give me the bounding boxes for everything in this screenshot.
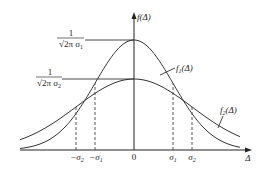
tick-label-sigma1: σ1 [169,152,176,163]
peak-value-f1: 1 √2π σ1 [57,28,84,50]
x-axis-label: Δ [244,153,250,163]
diagram-canvas: f(Δ) f1(Δ) f2(Δ) 1 √2π σ1 1 √2π σ2 −σ2 −… [0,0,267,174]
svg-text:1: 1 [69,28,74,38]
curve-label-f1: f1(Δ) [176,63,193,74]
y-axis-label: f(Δ) [137,12,151,22]
y-axis-arrow-icon [132,12,137,19]
svg-text:1: 1 [48,67,53,77]
svg-text:√2π σ1: √2π σ1 [59,39,83,50]
x-axis-arrow-icon [245,148,252,153]
peak-value-f2: 1 √2π σ2 [36,67,62,89]
tick-label-neg-sigma2: −σ2 [70,152,84,163]
tick-label-sigma2: σ2 [188,152,195,163]
curve-f1 [20,40,240,148]
tick-label-neg-sigma1: −σ1 [89,152,103,163]
curve-label-f2: f2(Δ) [220,105,237,116]
tick-label-origin: 0 [132,152,137,162]
svg-text:√2π σ2: √2π σ2 [37,78,61,89]
